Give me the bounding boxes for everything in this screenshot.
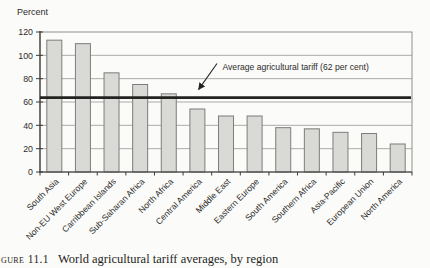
y-tick-label-0: 0 [28,167,33,177]
bar-central-america [190,109,205,172]
y-tick-label-40: 40 [23,121,33,131]
bar-south-america [276,128,291,172]
y-tick-label-120: 120 [18,27,33,37]
bar-north-africa [161,94,176,172]
tariff-bar-chart: 020406080100120PercentSouth AsiaNon-EU W… [0,0,430,246]
bar-north-america [390,144,405,172]
y-tick-label-80: 80 [23,74,33,84]
y-tick-label-100: 100 [18,51,33,61]
bar-southern-africa [304,129,319,172]
y-tick-label-60: 60 [23,97,33,107]
figure-chart-area: 020406080100120PercentSouth AsiaNon-EU W… [0,0,430,246]
annotation-text: Average agricultural tariff (62 per cent… [223,62,369,72]
y-tick-label-20: 20 [23,144,33,154]
annotation-arrow [199,64,218,90]
figure-caption-text: World agricultural tariff averages, by r… [58,252,278,266]
bar-south-asia [47,40,62,172]
bar-middle-east [219,116,234,172]
bar-carribbean-islands [104,73,119,172]
figure-caption-label: gure 11.1 [1,253,49,265]
bar-non-eu-west-europe [75,44,90,172]
figure-caption: gure 11.1World agricultural tariff avera… [1,249,429,267]
bar-eastern-europe [247,116,262,172]
y-axis-title: Percent [17,7,49,17]
bar-european-union [362,134,377,173]
bar-asia-pacific [333,132,348,172]
